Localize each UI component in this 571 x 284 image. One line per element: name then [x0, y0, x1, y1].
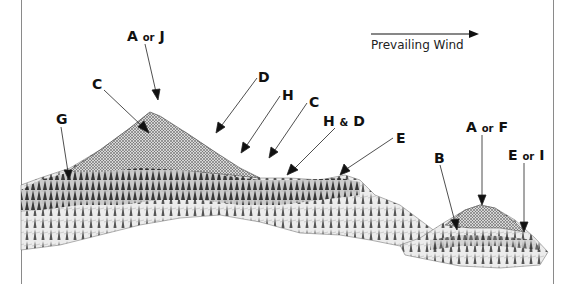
label-h-and-d: H & D: [323, 114, 365, 130]
label-main: A: [127, 28, 138, 44]
label-second: I: [539, 147, 544, 163]
label-conj: or: [143, 32, 155, 43]
label-second: J: [159, 28, 164, 44]
label-main: E: [508, 147, 518, 163]
label-main: H: [323, 113, 335, 129]
label-main: A: [466, 119, 477, 135]
label-main: G: [56, 111, 68, 127]
label-a-or-j: A or J: [127, 29, 165, 45]
label-main: E: [396, 130, 406, 146]
label-b: B: [434, 151, 445, 165]
label-d-upper: D: [258, 70, 270, 84]
label-main: D: [258, 69, 270, 85]
label-main: B: [434, 150, 445, 166]
label-main: C: [309, 94, 319, 110]
label-a-or-f: A or F: [466, 120, 508, 136]
label-e-mid: E: [396, 131, 406, 145]
label-conj: or: [522, 151, 534, 162]
small-mountain: [400, 205, 548, 268]
label-c-right: C: [309, 95, 319, 109]
label-conj: &: [340, 117, 349, 128]
label-second: D: [353, 113, 365, 129]
label-second: F: [498, 119, 508, 135]
landscape-diagram: Prevailing Wind A or J C D H C H & D E G…: [0, 0, 571, 284]
mountain-illustration: [0, 0, 571, 284]
label-conj: or: [482, 123, 494, 134]
label-h-upper: H: [282, 88, 294, 102]
label-c-left: C: [92, 77, 102, 91]
label-main: C: [92, 76, 102, 92]
label-e-or-i: E or I: [508, 148, 544, 164]
label-main: H: [282, 87, 294, 103]
large-mountain: [21, 112, 440, 250]
label-g: G: [56, 112, 68, 126]
prevailing-wind-label: Prevailing Wind: [371, 38, 464, 52]
wind-arrow: [371, 30, 479, 38]
